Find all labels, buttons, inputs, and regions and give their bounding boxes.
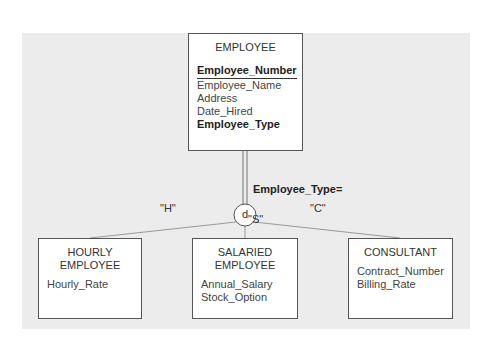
attribute: Hourly_Rate (47, 278, 141, 291)
entity-title: EMPLOYEE (39, 259, 141, 272)
entity-title: EMPLOYEE (193, 259, 297, 272)
attribute: Contract_Number (357, 265, 452, 278)
entity-employee: EMPLOYEE Employee_Number Employee_Name A… (188, 33, 303, 151)
entity-salaried-employee: SALARIED EMPLOYEE Annual_Salary Stock_Op… (192, 238, 298, 319)
entity-title: CONSULTANT (349, 246, 452, 259)
attribute: Billing_Rate (357, 278, 452, 291)
subtype-value-salaried: "S" (248, 213, 263, 225)
entity-title: HOURLY (39, 246, 141, 259)
attribute: Annual_Salary (201, 278, 297, 291)
attribute: Date_Hired (197, 105, 302, 118)
subtype-value-consultant: "C" (310, 202, 326, 214)
entity-title: SALARIED (193, 246, 297, 259)
primary-key-attribute: Employee_Number (197, 64, 297, 79)
attribute: Address (197, 92, 302, 105)
attribute: Stock_Option (201, 291, 297, 304)
entity-consultant: CONSULTANT Contract_Number Billing_Rate (348, 238, 453, 319)
entity-hourly-employee: HOURLY EMPLOYEE Hourly_Rate (38, 238, 142, 319)
discriminator-label: Employee_Type= (253, 183, 342, 195)
entity-title: EMPLOYEE (189, 41, 302, 54)
attribute: Employee_Name (197, 79, 302, 92)
subtype-value-hourly: "H" (160, 202, 176, 214)
discriminator-attribute: Employee_Type (197, 118, 302, 131)
